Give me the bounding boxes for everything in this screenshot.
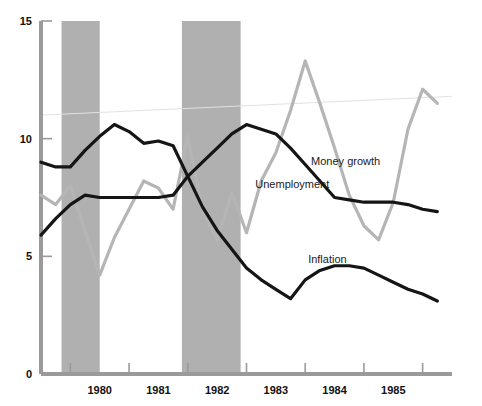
x-axis — [41, 363, 452, 374]
chart-plot-area: 051015 198019811982198319841985 Money gr… — [0, 0, 482, 406]
x-tick-label-1984: 1984 — [322, 384, 347, 396]
x-axis-tick-labels: 198019811982198319841985 — [87, 384, 405, 396]
faint-trend-line — [41, 96, 452, 115]
y-tick-label-5: 5 — [26, 250, 32, 262]
faint-trend-line — [41, 96, 452, 115]
economic-indicators-chart: 051015 198019811982198319841985 Money gr… — [0, 0, 482, 406]
annotation-inflation: Inflation — [308, 253, 347, 265]
x-tick-label-1983: 1983 — [264, 384, 288, 396]
annotation-money-growth: Money growth — [311, 155, 380, 167]
y-tick-label-15: 15 — [20, 15, 32, 27]
x-tick-label-1985: 1985 — [381, 384, 405, 396]
x-tick-label-1980: 1980 — [87, 384, 111, 396]
y-tick-label-10: 10 — [20, 133, 32, 145]
annotation-unemployment: Unemployment — [255, 178, 329, 190]
y-tick-label-0: 0 — [26, 368, 32, 380]
x-tick-label-1981: 1981 — [146, 384, 170, 396]
x-tick-label-1982: 1982 — [205, 384, 229, 396]
series-annotations-group: Money growthUnemploymentInflation — [255, 155, 380, 266]
y-axis-tick-labels: 051015 — [20, 15, 32, 380]
